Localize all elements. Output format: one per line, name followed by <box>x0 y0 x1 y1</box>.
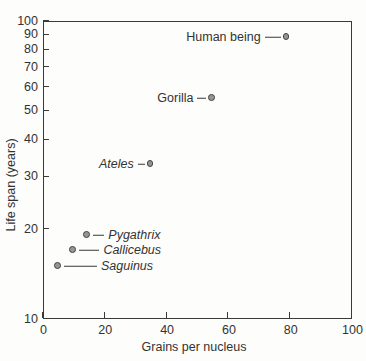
data-point <box>283 33 290 40</box>
point-label: Callicebus <box>103 244 161 257</box>
y-tick-label: 10 <box>24 312 38 325</box>
leader-line <box>265 37 281 38</box>
y-axis-title: Life span (years) <box>4 138 18 231</box>
point-label: Ateles <box>99 158 134 171</box>
y-tick-label: 20 <box>24 223 38 236</box>
point-label: Gorilla <box>157 92 193 105</box>
data-point <box>69 246 76 253</box>
y-tick-label: 30 <box>24 170 38 183</box>
x-tick-mark <box>351 312 352 318</box>
x-tick-label: 100 <box>342 324 363 337</box>
scatter-figure: Life span (years) Grains per nucleus 102… <box>0 0 366 361</box>
x-tick-label: 20 <box>98 324 112 337</box>
x-tick-mark <box>166 312 167 318</box>
y-tick-mark <box>43 176 49 177</box>
y-tick-label: 90 <box>24 28 38 41</box>
point-annotation: Ateles <box>99 158 145 171</box>
x-tick-label: 0 <box>40 324 47 337</box>
point-annotation: Callicebus <box>79 244 161 257</box>
y-tick-mark <box>43 49 49 50</box>
y-tick-label: 100 <box>17 14 38 27</box>
y-tick-mark <box>43 66 49 67</box>
y-tick-label: 80 <box>24 43 38 56</box>
y-tick-label: 50 <box>24 104 38 117</box>
x-tick-mark <box>42 312 43 318</box>
point-label: Human being <box>186 31 260 44</box>
x-tick-mark <box>227 312 228 318</box>
leader-line <box>79 249 99 250</box>
y-tick-label: 40 <box>24 133 38 146</box>
y-tick-label: 70 <box>24 60 38 73</box>
point-annotation: Saguinus <box>64 260 153 273</box>
leader-line <box>64 266 97 267</box>
leader-line <box>138 163 145 164</box>
y-tick-mark <box>43 139 49 140</box>
y-tick-mark <box>43 110 49 111</box>
data-point <box>147 160 154 167</box>
y-tick-mark <box>43 20 49 21</box>
x-tick-label: 40 <box>160 324 174 337</box>
point-label: Saguinus <box>101 260 153 273</box>
point-annotation: Pygathrix <box>93 229 160 242</box>
x-tick-label: 60 <box>222 324 236 337</box>
point-annotation: Human being <box>186 31 280 44</box>
point-label: Pygathrix <box>108 229 160 242</box>
y-tick-mark <box>43 86 49 87</box>
leader-line <box>197 97 206 98</box>
y-tick-label: 60 <box>24 80 38 93</box>
y-tick-mark <box>43 34 49 35</box>
leader-line <box>93 235 104 236</box>
x-tick-mark <box>289 312 290 318</box>
data-point <box>208 94 215 101</box>
y-tick-mark <box>43 318 49 319</box>
plot-area <box>43 21 352 319</box>
x-tick-label: 80 <box>284 324 298 337</box>
data-point <box>54 262 61 269</box>
y-tick-mark <box>43 228 49 229</box>
x-tick-mark <box>104 312 105 318</box>
point-annotation: Gorilla <box>157 92 206 105</box>
x-axis-title: Grains per nucleus <box>142 340 247 354</box>
